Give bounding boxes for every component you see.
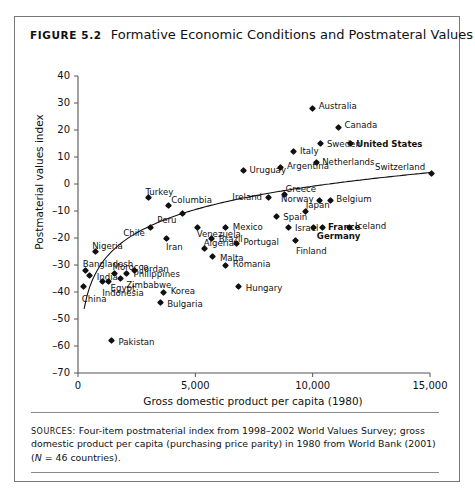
- source-caption: Sources:: [31, 427, 76, 436]
- source-line-1: Four-item postmaterial index from 1998–2…: [79, 425, 425, 436]
- note-divider-top: [31, 412, 439, 413]
- figure-heading: Figure 5.2Formative Economic Conditions …: [30, 27, 473, 42]
- source-note: Sources: Four-item postmaterial index fr…: [31, 424, 439, 464]
- source-line-3: = 46 countries).: [42, 452, 121, 463]
- figure-number: Figure 5.2: [30, 29, 102, 41]
- figure-root: Figure 5.2Formative Economic Conditions …: [0, 0, 475, 497]
- source-n-symbol: N: [35, 452, 42, 463]
- note-divider-bottom: [31, 472, 439, 473]
- source-line-2: domestic product per capita (purchasing …: [31, 438, 436, 449]
- figure-title: Formative Economic Conditions and Postma…: [111, 27, 473, 42]
